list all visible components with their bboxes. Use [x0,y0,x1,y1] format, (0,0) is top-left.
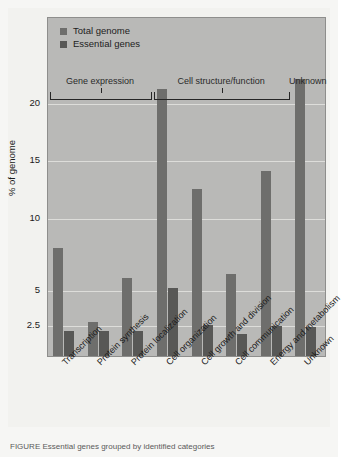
legend-swatch-essential-genes [60,41,67,48]
chart-plot-area: Gene expressionCell structure/functionUn… [47,17,326,357]
group-label-cell-structure-function: Cell structure/function [178,76,265,86]
y-tick-20: 20 [6,98,40,108]
chart-legend: Total genome Essential genes [60,26,140,49]
legend-item-essential-genes: Essential genes [60,39,140,49]
group-bracket-tick [222,88,223,93]
legend-label-total-genome: Total genome [73,26,130,36]
figure-caption: FIGURE Essential genes grouped by identi… [10,442,330,451]
group-bracket-cell-structure-function [154,92,291,100]
legend-swatch-total-genome [60,28,67,35]
group-bracket-gene-expression [50,92,152,100]
group-label-gene-expression: Gene expression [66,76,134,86]
y-tick-2-5: 2.5 [6,320,40,330]
y-tick-10: 10 [6,213,40,223]
legend-label-essential-genes: Essential genes [73,39,140,49]
y-tick-5: 5 [6,285,40,295]
y-axis-label: % of genome [6,140,17,196]
legend-item-total-genome: Total genome [60,26,140,36]
bar-transcription-total-genome [53,248,63,356]
group-bracket-tick [101,88,102,93]
group-label-unknown: Unknown [289,76,327,86]
